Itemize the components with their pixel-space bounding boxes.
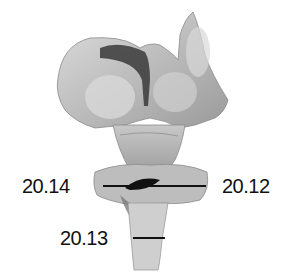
label-20-12: 20.12: [222, 176, 270, 196]
label-20-13: 20.13: [60, 228, 108, 248]
leader-line-20-12: [151, 185, 206, 187]
anatomical-figure: 20.14 20.12 20.13: [0, 0, 299, 277]
specimen-render: [0, 0, 299, 277]
label-20-14: 20.14: [22, 176, 70, 196]
leader-line-20-14: [103, 185, 151, 187]
leader-line-20-13: [133, 237, 165, 239]
